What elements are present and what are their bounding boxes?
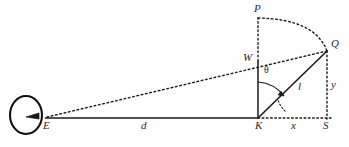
eye-pupil-arrow — [26, 113, 39, 119]
point-label-P: P — [254, 3, 261, 14]
diagram-canvas — [0, 0, 349, 147]
point-label-W: W — [243, 52, 252, 63]
angle-arc-k-lower — [278, 100, 285, 111]
geometry-diagram: E K S W P Q d x y l θ — [0, 0, 349, 147]
arc-p-to-q — [258, 18, 327, 51]
segment-label-x: x — [291, 120, 296, 131]
segment-label-d: d — [141, 120, 147, 131]
angle-label-theta: θ — [264, 65, 269, 75]
segment-label-l: l — [298, 81, 301, 92]
point-label-E: E — [43, 120, 50, 131]
point-label-Q: Q — [331, 38, 339, 49]
point-label-K: K — [255, 120, 262, 131]
sight-line-e-to-q — [47, 51, 327, 117]
segment-label-y: y — [331, 79, 336, 90]
point-label-S: S — [323, 120, 329, 131]
